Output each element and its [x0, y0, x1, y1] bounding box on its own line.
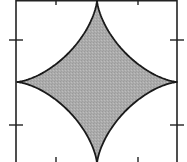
astroid-diagram [0, 0, 187, 162]
astroid-shape [17, 0, 178, 162]
